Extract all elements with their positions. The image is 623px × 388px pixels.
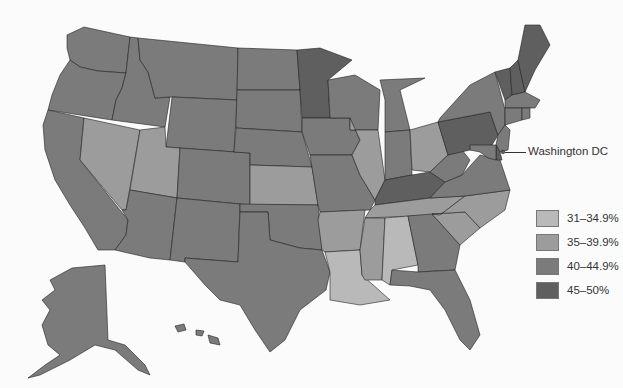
legend-label: 40–44.9% bbox=[567, 260, 619, 272]
state-fl bbox=[390, 270, 480, 350]
legend-item: 40–44.9% bbox=[536, 254, 619, 278]
state-in bbox=[385, 130, 412, 180]
dc-leader-line bbox=[505, 152, 526, 153]
state-ks bbox=[250, 165, 318, 205]
state-mt bbox=[138, 38, 238, 100]
state-sd bbox=[236, 90, 302, 132]
legend: 31–34.9% 35–39.9% 40–44.9% 45–50% bbox=[536, 206, 619, 302]
state-hi-2 bbox=[196, 330, 204, 336]
state-ri bbox=[522, 108, 530, 120]
dc-annotation-label: Washington DC bbox=[528, 145, 608, 157]
state-ar bbox=[318, 210, 365, 252]
state-hi-3 bbox=[208, 335, 220, 345]
us-choropleth-map bbox=[0, 0, 623, 388]
legend-item: 31–34.9% bbox=[536, 206, 619, 230]
legend-label: 31–34.9% bbox=[567, 212, 619, 224]
state-nm bbox=[170, 198, 240, 262]
legend-item: 35–39.9% bbox=[536, 230, 619, 254]
state-wy bbox=[166, 97, 237, 152]
legend-swatch bbox=[536, 210, 559, 227]
state-hi bbox=[175, 324, 186, 332]
legend-item: 45–50% bbox=[536, 278, 619, 302]
legend-label: 45–50% bbox=[567, 284, 609, 296]
state-me bbox=[518, 25, 550, 92]
legend-label: 35–39.9% bbox=[567, 236, 619, 248]
state-co bbox=[177, 148, 250, 205]
legend-swatch bbox=[536, 282, 559, 299]
state-ct bbox=[505, 108, 522, 125]
state-mi bbox=[380, 78, 425, 132]
legend-swatch bbox=[536, 258, 559, 275]
legend-swatch bbox=[536, 234, 559, 251]
state-ak bbox=[28, 265, 150, 378]
state-ms bbox=[360, 218, 385, 280]
state-nd bbox=[237, 48, 300, 90]
